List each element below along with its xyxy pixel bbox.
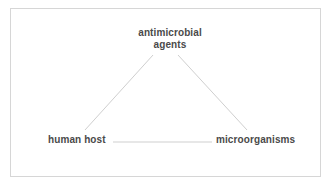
edge-top-left [85,55,153,130]
node-top-line1: antimicrobial [120,27,220,39]
node-antimicrobial-agents: antimicrobial agents [120,27,220,51]
node-top-line2: agents [120,39,220,51]
node-microorganisms: microorganisms [216,134,295,146]
node-human-host: human host [48,134,106,146]
edge-top-right [178,55,247,130]
